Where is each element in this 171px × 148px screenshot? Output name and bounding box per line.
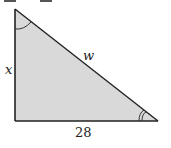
cutoff-text-fragment xyxy=(4,0,16,2)
cutoff-text-fragment xyxy=(40,0,52,2)
triangle-diagram: x w 28 xyxy=(0,0,171,148)
label-w: w xyxy=(83,48,94,63)
label-x: x xyxy=(5,62,13,77)
label-base: 28 xyxy=(75,125,92,140)
